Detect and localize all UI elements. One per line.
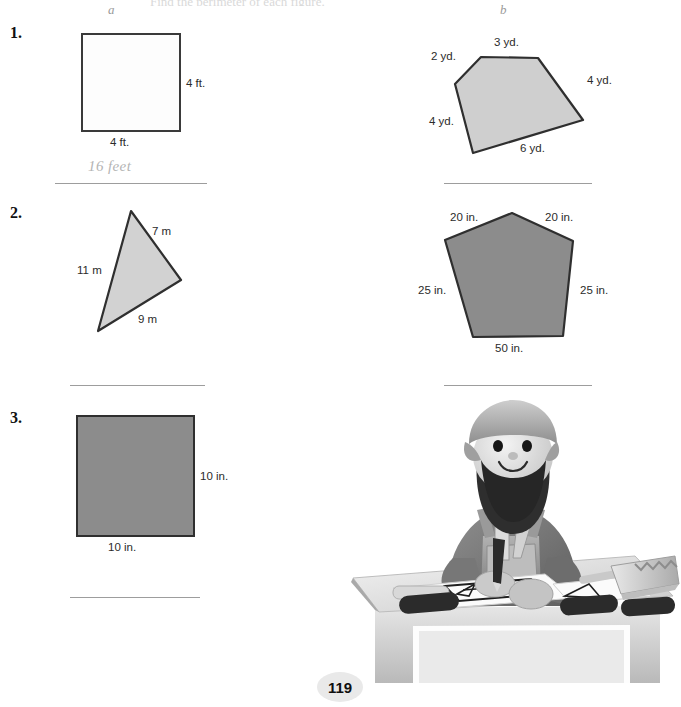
dim-label-1b-bottom: 6 yd. bbox=[520, 142, 545, 154]
dim-label-2b-upper-left: 20 in. bbox=[450, 211, 478, 223]
clipped-instruction-text: Find the perimeter of each figure. bbox=[150, 0, 570, 6]
dim-label-2b-left: 25 in. bbox=[418, 284, 446, 296]
page-number-badge: 119 bbox=[317, 672, 363, 702]
dim-label-1b-upper-left: 2 yd. bbox=[431, 50, 456, 62]
answer-line-2a[interactable] bbox=[70, 385, 205, 386]
dim-label-1b-upper-right: 4 yd. bbox=[587, 74, 612, 86]
dim-label-1b-top: 3 yd. bbox=[494, 36, 519, 48]
worksheet-page: Find the perimeter of each figure. a b 1… bbox=[0, 0, 681, 707]
dim-label-2a-left: 11 m bbox=[77, 264, 102, 276]
dim-label-1a-right: 4 ft. bbox=[186, 77, 205, 89]
illustration-carpenter-at-workbench bbox=[335, 398, 681, 688]
column-header-b: b bbox=[500, 2, 507, 18]
problem-number-3: 3. bbox=[10, 409, 22, 427]
answer-line-1a[interactable] bbox=[55, 183, 207, 184]
dim-label-2a-bottom-right: 9 m bbox=[138, 313, 157, 325]
shape-square-gray-3a bbox=[76, 415, 195, 537]
shape-square-white-1a bbox=[81, 33, 181, 132]
problem-number-1: 1. bbox=[10, 24, 22, 42]
answer-line-2b[interactable] bbox=[444, 385, 592, 386]
dim-label-3a-bottom: 10 in. bbox=[108, 541, 136, 553]
answer-text-1a: 16 feet bbox=[88, 158, 131, 175]
dim-label-2a-upper-right: 7 m bbox=[152, 225, 171, 237]
dim-label-1a-bottom: 4 ft. bbox=[110, 136, 129, 148]
dim-label-2b-bottom: 50 in. bbox=[495, 342, 523, 354]
problem-number-2: 2. bbox=[10, 204, 22, 222]
dim-label-2b-right: 25 in. bbox=[580, 284, 608, 296]
dim-label-2b-upper-right: 20 in. bbox=[545, 211, 573, 223]
dim-label-1b-left: 4 yd. bbox=[429, 115, 454, 127]
answer-line-1b[interactable] bbox=[444, 183, 592, 184]
dim-label-3a-right: 10 in. bbox=[200, 470, 228, 482]
answer-line-3a[interactable] bbox=[70, 597, 200, 598]
column-header-a: a bbox=[108, 2, 115, 18]
shape-pentagon-regular-2b bbox=[440, 205, 590, 345]
